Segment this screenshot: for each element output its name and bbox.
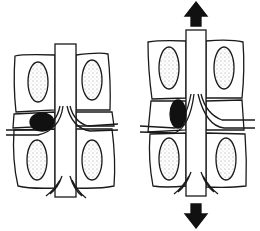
vertebral-body-lr-r bbox=[216, 138, 236, 180]
spinal-cord-r bbox=[186, 30, 206, 196]
vertebral-body-ur bbox=[82, 60, 102, 100]
disc-herniation-r bbox=[170, 100, 186, 128]
vertebral-body-ul bbox=[28, 62, 48, 102]
vertebral-body-ll bbox=[27, 140, 47, 180]
right-panel bbox=[140, 2, 255, 228]
disc-right-r bbox=[206, 100, 244, 130]
vertebral-body-ur-r bbox=[214, 47, 234, 89]
disc-herniation bbox=[30, 113, 54, 131]
vertebral-body-ul-r bbox=[159, 47, 179, 89]
arrow-down-icon bbox=[185, 204, 207, 228]
diagram-svg bbox=[0, 0, 260, 231]
vertebral-body-lr bbox=[82, 140, 102, 180]
vertebral-body-ll-r bbox=[159, 138, 179, 180]
arrow-up-icon bbox=[185, 2, 207, 26]
left-panel bbox=[6, 44, 118, 198]
spine-traction-diagram bbox=[0, 0, 260, 231]
